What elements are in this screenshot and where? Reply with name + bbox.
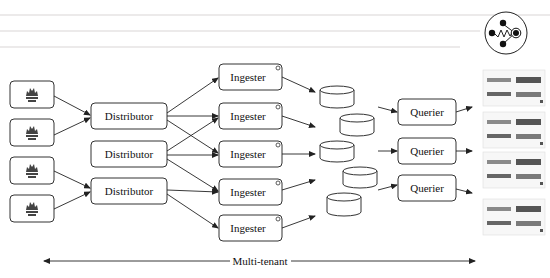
ingester-1-label: Ingester [230,71,266,83]
dashboard-thumbnail [483,112,545,148]
cortex-logo-icon [485,12,527,54]
distributor-2-label: Distributor [105,148,154,160]
ingester-4-label: Ingester [230,186,266,198]
prometheus-source-4 [10,195,54,222]
ingester-2-label: Ingester [230,110,266,122]
queriers: Querier Querier Querier [398,99,456,201]
distributor-1-label: Distributor [105,110,154,122]
database-icon [320,141,354,162]
cortex-architecture-diagram: Distributor Distributor Distributor Inge… [0,0,550,278]
multi-tenant-label: Multi-tenant [233,255,288,267]
ingesters: Ingester Ingester Ingester Ingester Inge… [219,64,282,241]
database-icon [340,114,374,136]
ingester-3-label: Ingester [230,148,266,160]
database-icon [320,86,354,108]
ingester-5-label: Ingester [230,222,266,234]
database-icon [343,167,377,188]
prometheus-source-3 [10,157,54,184]
dashboards [483,70,545,235]
prometheus-source-2 [10,119,54,146]
querier-1-label: Querier [410,106,444,118]
prometheus-sources [10,81,54,222]
dashboard-thumbnail [483,152,545,188]
distributors: Distributor Distributor Distributor [91,103,167,204]
storage-cylinders [320,86,377,216]
prometheus-source-1 [10,81,54,108]
querier-2-label: Querier [410,145,444,157]
dashboard-thumbnail [483,199,545,235]
querier-3-label: Querier [410,182,444,194]
dashboard-thumbnail [483,70,545,106]
database-icon [327,193,361,216]
distributor-3-label: Distributor [105,185,154,197]
multi-tenant-span: Multi-tenant [44,255,475,267]
